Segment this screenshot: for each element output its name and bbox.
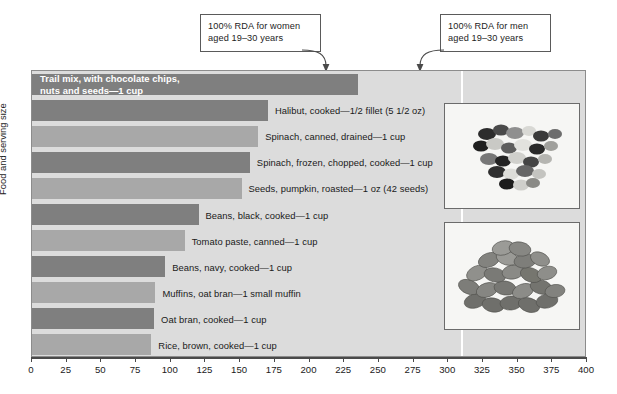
x-tick-label: 200 bbox=[300, 364, 316, 375]
bar bbox=[32, 204, 199, 225]
x-tick-label: 100 bbox=[162, 364, 178, 375]
bar bbox=[32, 308, 154, 329]
bar bbox=[32, 178, 242, 199]
x-tick bbox=[482, 357, 483, 362]
trail-mix-photo bbox=[444, 103, 580, 209]
x-tick bbox=[309, 357, 310, 362]
x-tick-label: 75 bbox=[130, 364, 141, 375]
x-tick bbox=[343, 357, 344, 362]
bar-row: Rice, brown, cooked—1 cup bbox=[32, 334, 587, 355]
bar-label: Halibut, cooked—1/2 fillet (5 1/2 oz) bbox=[275, 105, 425, 116]
chart-figure: 100% RDA for women aged 19–30 years 100%… bbox=[0, 0, 617, 394]
x-tick-label: 150 bbox=[231, 364, 247, 375]
x-tick bbox=[551, 357, 552, 362]
x-tick-label: 0 bbox=[28, 364, 33, 375]
x-tick bbox=[135, 357, 136, 362]
x-tick-label: 325 bbox=[474, 364, 490, 375]
rda-callout-women: 100% RDA for women aged 19–30 years bbox=[200, 14, 321, 52]
x-tick-label: 375 bbox=[543, 364, 559, 375]
bar-label: Rice, brown, cooked—1 cup bbox=[158, 339, 277, 350]
x-tick bbox=[378, 357, 379, 362]
bar bbox=[32, 230, 185, 251]
x-tick-label: 300 bbox=[439, 364, 455, 375]
x-tick-label: 275 bbox=[405, 364, 421, 375]
bar-label: Tomato paste, canned—1 cup bbox=[192, 235, 318, 246]
x-tick-label: 25 bbox=[60, 364, 71, 375]
bar bbox=[32, 334, 151, 355]
bar-label: Spinach, frozen, chopped, cooked—1 cup bbox=[257, 157, 433, 168]
bar bbox=[32, 282, 155, 303]
x-tick bbox=[100, 357, 101, 362]
x-tick bbox=[204, 357, 205, 362]
x-tick bbox=[239, 357, 240, 362]
bar bbox=[32, 100, 268, 121]
x-tick-label: 125 bbox=[196, 364, 212, 375]
x-tick bbox=[517, 357, 518, 362]
bar-label: Beans, navy, cooked—1 cup bbox=[172, 261, 292, 272]
y-axis-title: Food and serving size bbox=[0, 103, 8, 195]
bar-label: Spinach, canned, drained—1 cup bbox=[265, 131, 405, 142]
bar-label: Oat bran, cooked—1 cup bbox=[161, 313, 266, 324]
x-tick bbox=[586, 357, 587, 362]
bar-label: Muffins, oat bran—1 small muffin bbox=[162, 287, 300, 298]
pumpkin-seeds-photo bbox=[444, 222, 580, 330]
x-tick bbox=[66, 357, 67, 362]
x-tick bbox=[413, 357, 414, 362]
bar-label: Beans, black, cooked—1 cup bbox=[206, 209, 329, 220]
bar-row: Trail mix, with chocolate chips, nuts an… bbox=[32, 74, 587, 95]
x-tick bbox=[274, 357, 275, 362]
x-tick-label: 400 bbox=[578, 364, 594, 375]
rda-line-men bbox=[586, 71, 589, 356]
x-tick-label: 50 bbox=[95, 364, 106, 375]
bar bbox=[32, 126, 258, 147]
x-tick bbox=[447, 357, 448, 362]
bar-label: Seeds, pumpkin, roasted—1 oz (42 seeds) bbox=[249, 183, 429, 194]
x-tick-label: 175 bbox=[266, 364, 282, 375]
bar bbox=[32, 152, 250, 173]
x-tick-label: 350 bbox=[509, 364, 525, 375]
x-tick-label: 225 bbox=[335, 364, 351, 375]
bar bbox=[32, 256, 165, 277]
rda-callout-men: 100% RDA for men aged 19–30 years bbox=[440, 14, 551, 52]
x-tick bbox=[170, 357, 171, 362]
x-tick bbox=[31, 357, 32, 362]
x-tick-label: 250 bbox=[370, 364, 386, 375]
bar-label: Trail mix, with chocolate chips, nuts an… bbox=[40, 73, 180, 96]
